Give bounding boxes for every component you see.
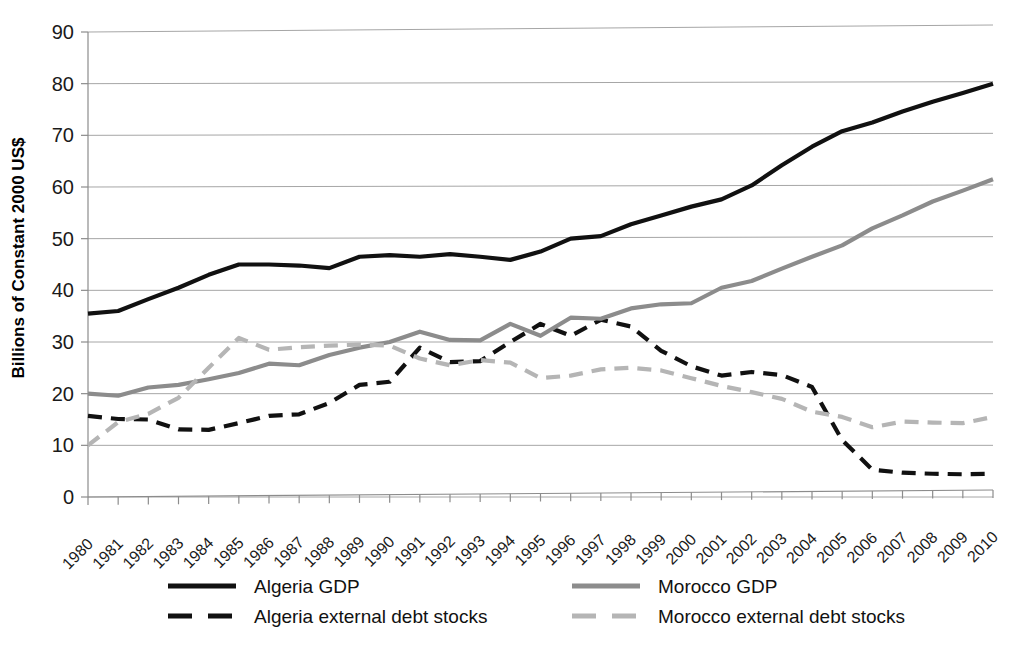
- y-tick-label: 0: [63, 486, 74, 508]
- legend-label-algeria-gdp: Algeria GDP: [254, 576, 360, 597]
- x-axis-group: 1980198119821983198419851986198719881989…: [59, 490, 1001, 572]
- x-tick-label-2004: 2004: [783, 529, 820, 566]
- gridline-80: [88, 82, 993, 84]
- series-line-algeria-gdp: [88, 84, 993, 314]
- x-tick-label-1994: 1994: [481, 532, 518, 569]
- series-line-morocco-external-debt-stocks: [88, 338, 993, 445]
- legend: Algeria GDPMorocco GDPAlgeria external d…: [168, 576, 905, 627]
- x-tick-label-1992: 1992: [421, 532, 458, 569]
- series-group: [88, 84, 993, 475]
- y-tick-label: 70: [52, 124, 74, 146]
- x-tick-label-2000: 2000: [662, 530, 699, 567]
- x-tick-label-2003: 2003: [753, 530, 790, 567]
- x-tick-label-1999: 1999: [632, 531, 669, 568]
- x-tick-label-2001: 2001: [692, 530, 729, 567]
- x-tick-label-1989: 1989: [330, 533, 367, 570]
- line-chart: 0102030405060708090 19801981198219831984…: [0, 0, 1009, 659]
- x-tick-label-1996: 1996: [542, 531, 579, 568]
- x-tick-label-2007: 2007: [873, 529, 910, 566]
- gridline-60: [88, 185, 993, 187]
- x-tick-label-1981: 1981: [89, 535, 126, 572]
- x-tick-label-2008: 2008: [904, 528, 941, 565]
- x-tick-label-1988: 1988: [300, 533, 337, 570]
- x-tick-label-1995: 1995: [511, 532, 548, 569]
- x-tick-label-1990: 1990: [361, 533, 398, 570]
- x-tick-label-1985: 1985: [210, 534, 247, 571]
- x-tick-label-1983: 1983: [149, 534, 186, 571]
- x-tick-label-2006: 2006: [843, 529, 880, 566]
- y-tick-label: 40: [52, 279, 74, 301]
- x-tick-label-1984: 1984: [180, 534, 217, 571]
- y-tick-label: 10: [52, 434, 74, 456]
- y-tick-label: 90: [52, 21, 74, 43]
- y-tick-label: 60: [52, 176, 74, 198]
- x-tick-label-1993: 1993: [451, 532, 488, 569]
- y-axis-title-group: Billions of Constant 2000 US$: [9, 137, 28, 378]
- y-tick-label: 20: [52, 383, 74, 405]
- x-tick-label-1987: 1987: [270, 533, 307, 570]
- x-tick-label-2005: 2005: [813, 529, 850, 566]
- series-line-algeria-external-debt-stocks: [88, 320, 993, 474]
- x-tick-label-1982: 1982: [119, 535, 156, 572]
- x-tick-label-1986: 1986: [240, 534, 277, 571]
- legend-label-morocco-gdp: Morocco GDP: [658, 576, 777, 597]
- legend-label-morocco-external-debt-stocks: Morocco external debt stocks: [658, 606, 905, 627]
- x-tick-label-2002: 2002: [723, 530, 760, 567]
- y-axis-title: Billions of Constant 2000 US$: [9, 137, 28, 378]
- y-tick-label: 50: [52, 228, 74, 250]
- y-tick-label: 30: [52, 331, 74, 353]
- gridline-90: [88, 25, 993, 32]
- x-tick-label-2009: 2009: [934, 528, 971, 565]
- y-tick-label: 80: [52, 73, 74, 95]
- series-line-morocco-gdp: [88, 179, 993, 395]
- gridlines-group: [88, 25, 993, 497]
- x-tick-label-1980: 1980: [59, 535, 96, 572]
- x-tick-label-1998: 1998: [602, 531, 639, 568]
- chart-container: 0102030405060708090 19801981198219831984…: [0, 0, 1009, 659]
- y-axis-group: 0102030405060708090: [52, 21, 88, 508]
- legend-label-algeria-external-debt-stocks: Algeria external debt stocks: [254, 606, 487, 627]
- x-tick-label-1997: 1997: [572, 531, 609, 568]
- gridline-70: [88, 133, 993, 135]
- x-tick-label-2010: 2010: [964, 528, 1001, 565]
- x-tick-label-1991: 1991: [391, 532, 428, 569]
